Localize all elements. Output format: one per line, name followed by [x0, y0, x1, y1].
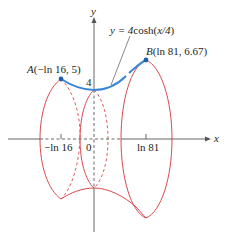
point-A-label: A(−ln 16, 5) [26, 63, 81, 76]
curve-eq-prefix: y = 4 [109, 24, 134, 36]
y-axis-arrow-icon [92, 17, 97, 23]
x-axis-label: x [213, 132, 219, 144]
point-B-label: B(ln 81, 6.67) [146, 45, 207, 58]
catenary-surface-figure: y x y = 4cosh(x/4) B(ln 81, 6.67) A(−ln … [0, 0, 228, 236]
curve-eq-func: cosh [133, 24, 154, 36]
bottom-catenary [61, 188, 146, 218]
x-tick-neg-ln16-label: −ln 16 [44, 141, 73, 153]
catenary-curve [61, 76, 126, 90]
x-tick-0-label: 0 [86, 141, 92, 153]
point-B-coords: (ln 81, 6.67) [153, 45, 208, 58]
point-A-marker [59, 77, 64, 82]
x-axis-arrow-icon [205, 137, 211, 142]
point-A-coords: (−ln 16, 5) [34, 63, 81, 76]
curve-eq-close: ) [171, 24, 175, 37]
y-axis-label: y [90, 5, 96, 17]
x-tick-ln81-label: ln 81 [137, 141, 159, 153]
curve-label-leader [111, 36, 130, 85]
y-tick-4-label: 4 [86, 76, 92, 88]
curve-equation-label: y = 4cosh(x/4) [109, 24, 175, 37]
catenary-curve-right [129, 60, 146, 73]
curve-eq-arg: x/4 [156, 24, 171, 36]
point-B-marker [144, 58, 149, 63]
